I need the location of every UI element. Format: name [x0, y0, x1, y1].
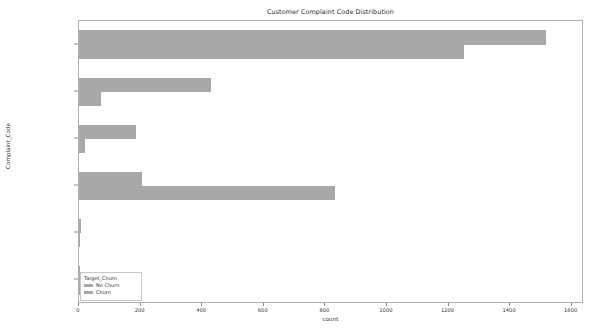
chart-figure: Customer Complaint Code Distribution Com…	[0, 0, 592, 334]
legend-entry: Churn	[84, 289, 138, 295]
legend-label: Churn	[96, 289, 111, 295]
bar	[79, 45, 464, 59]
x-axis-tick-mark	[263, 303, 264, 306]
x-axis-tick-label: 600	[258, 307, 268, 313]
x-axis-tick-label: 1600	[564, 307, 577, 313]
bar	[79, 233, 80, 247]
x-axis-tick-mark	[571, 303, 572, 306]
legend: Target_Churn No ChurnChurn	[80, 272, 142, 301]
y-axis-tick-mark	[74, 279, 78, 280]
legend-label: No Churn	[96, 282, 119, 288]
legend-entry: No Churn	[84, 282, 138, 288]
bar	[79, 139, 85, 153]
y-axis-tick-mark	[74, 232, 78, 233]
x-axis-tick-mark	[324, 303, 325, 306]
legend-entry-group: No ChurnChurn	[84, 282, 138, 295]
bar	[79, 219, 81, 233]
bar	[79, 30, 546, 44]
bar	[79, 172, 142, 186]
legend-swatch-icon	[84, 291, 93, 294]
y-axis-title: Complaint_Code	[5, 86, 11, 206]
legend-swatch-icon	[84, 284, 93, 287]
x-axis-tick-label: 800	[319, 307, 329, 313]
legend-title: Target_Churn	[84, 275, 138, 281]
x-axis-tick-mark	[201, 303, 202, 306]
x-axis-title: count	[78, 316, 583, 322]
y-axis-tick-mark	[74, 137, 78, 138]
chart-title: Customer Complaint Code Distribution	[78, 8, 583, 16]
bar	[79, 78, 211, 92]
plot-area	[78, 20, 583, 303]
x-axis-tick-label: 1200	[441, 307, 454, 313]
x-axis-tick-mark	[448, 303, 449, 306]
y-axis-tick-mark	[74, 90, 78, 91]
bar	[79, 125, 136, 139]
y-axis-tick-mark	[74, 43, 78, 44]
y-axis-tick-mark	[74, 185, 78, 186]
x-axis-tick-label: 1400	[502, 307, 515, 313]
x-axis-tick-label: 200	[135, 307, 145, 313]
x-axis-tick-mark	[509, 303, 510, 306]
x-axis-tick-label: 400	[196, 307, 206, 313]
bar	[79, 186, 335, 200]
x-axis-tick-mark	[78, 303, 79, 306]
x-axis-tick-mark	[386, 303, 387, 306]
bar	[79, 92, 101, 106]
x-axis-tick-label: 0	[76, 307, 79, 313]
x-axis-tick-mark	[140, 303, 141, 306]
x-axis-tick-label: 1000	[379, 307, 392, 313]
